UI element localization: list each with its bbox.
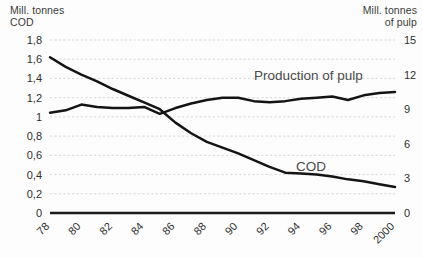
gridlines	[50, 40, 395, 194]
svg-text:0,8: 0,8	[27, 130, 42, 142]
x-axis-tick-labels: 78808284868890929496982000	[34, 220, 396, 246]
svg-text:2000: 2000	[371, 220, 397, 246]
svg-text:0,6: 0,6	[27, 149, 42, 161]
svg-text:96: 96	[317, 220, 334, 237]
svg-text:6: 6	[404, 138, 410, 150]
svg-text:90: 90	[222, 220, 239, 237]
right-axis-tick-labels: 15129630	[404, 34, 416, 219]
svg-text:9: 9	[404, 103, 410, 115]
svg-text:3: 3	[404, 172, 410, 184]
svg-text:0,2: 0,2	[27, 188, 42, 200]
svg-text:15: 15	[404, 34, 416, 46]
svg-text:92: 92	[254, 220, 271, 237]
series-line-production-of-pulp	[50, 92, 395, 114]
svg-text:78: 78	[34, 220, 51, 237]
svg-text:86: 86	[160, 220, 177, 237]
series-label-production-of-pulp: Production of pulp	[254, 68, 363, 83]
svg-text:88: 88	[191, 220, 208, 237]
svg-text:0,4: 0,4	[27, 169, 42, 181]
line-chart-plot: 1,81,61,41,210,80,60,40,20 15129630 7880…	[0, 0, 423, 258]
svg-text:1,2: 1,2	[27, 92, 42, 104]
chart-container: Mill. tonnes COD Mill. tonnes of pulp 1,…	[0, 0, 423, 258]
svg-text:80: 80	[66, 220, 83, 237]
svg-text:1,6: 1,6	[27, 53, 42, 65]
svg-text:98: 98	[348, 220, 365, 237]
series-label-cod: COD	[296, 159, 326, 174]
svg-text:0: 0	[404, 207, 410, 219]
svg-text:12: 12	[404, 69, 416, 81]
svg-text:1: 1	[36, 111, 42, 123]
svg-text:1,8: 1,8	[27, 34, 42, 46]
left-axis-tick-labels: 1,81,61,41,210,80,60,40,20	[27, 34, 42, 219]
svg-text:1,4: 1,4	[27, 72, 42, 84]
svg-text:0: 0	[36, 207, 42, 219]
svg-text:94: 94	[285, 220, 302, 237]
svg-text:82: 82	[97, 220, 114, 237]
svg-text:84: 84	[128, 220, 145, 237]
